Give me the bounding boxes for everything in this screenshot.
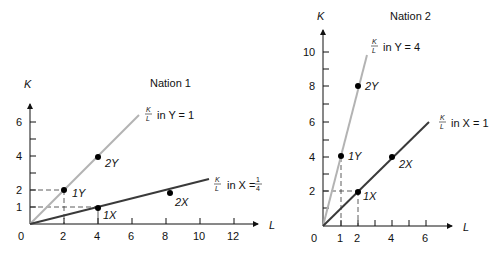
svg-text:in X = 1: in X = 1: [451, 117, 489, 129]
point-label: 2X: [398, 158, 413, 170]
y-tick-label: 2: [309, 185, 315, 197]
guide-lines: [30, 190, 98, 224]
point-1X: [95, 205, 101, 211]
x-axis-label: L: [463, 221, 469, 233]
point-1X: [355, 189, 361, 195]
y-tick-label: 8: [309, 80, 315, 92]
nation-2-panel: Nation 2 K L 0 1 2 4 6 2: [303, 10, 489, 244]
ray-Y-label: K L in Y = 1: [145, 106, 194, 122]
svg-text:K: K: [440, 114, 445, 121]
x-ticks: [64, 218, 234, 224]
point-label: 1X: [363, 190, 377, 202]
y-tick-label: 10: [303, 46, 315, 58]
x-tick-label: 4: [388, 232, 394, 244]
nation-2-title: Nation 2: [390, 10, 431, 22]
x-tick-label: 4: [94, 230, 100, 242]
ray-Y: [323, 55, 367, 226]
x-tick-label: 2: [354, 232, 360, 244]
svg-text:L: L: [372, 47, 376, 54]
svg-text:in X =: in X =: [227, 179, 259, 191]
point-2Y: [355, 83, 361, 89]
svg-text:K: K: [146, 106, 151, 113]
svg-text:L: L: [215, 185, 219, 192]
x-tick-label: 6: [128, 230, 134, 242]
svg-text:in Y = 4: in Y = 4: [383, 41, 420, 53]
y-tick-label: 6: [309, 116, 315, 128]
y-axis-label: K: [317, 10, 325, 22]
y-tick-label: 6: [16, 116, 22, 128]
point-2X: [167, 190, 173, 196]
x-tick-label: 12: [227, 230, 239, 242]
ray-X-label: K L in X = 1: [439, 114, 489, 130]
svg-text:K: K: [372, 38, 377, 45]
x-tick-label: 6: [422, 232, 428, 244]
point-2Y: [95, 154, 101, 160]
svg-text:K: K: [215, 176, 220, 183]
point-label: 2Y: [104, 157, 119, 169]
origin-label: 0: [18, 230, 24, 242]
x-tick-label: 8: [162, 230, 168, 242]
point-label: 1Y: [348, 150, 362, 162]
y-ticks: [323, 52, 329, 208]
y-tick-label: 4: [16, 150, 22, 162]
point-label: 2Y: [364, 80, 379, 92]
point-2X: [389, 154, 395, 160]
ray-Y-label: K L in Y = 4: [371, 38, 420, 54]
nation-1-panel: Nation 1 K L 0 2 4 6 8 10 12: [16, 77, 275, 242]
point-label: 2X: [174, 196, 189, 208]
origin-label: 0: [311, 232, 317, 244]
nation-1-title: Nation 1: [150, 77, 191, 89]
point-1Y: [338, 153, 344, 159]
y-ticks: [30, 122, 36, 207]
y-axis-label: K: [24, 78, 32, 90]
ray-X-label: K L in X = 1 4: [214, 176, 262, 192]
y-tick-label: 1: [16, 201, 22, 213]
factor-intensity-diagram: Nation 1 K L 0 2 4 6 8 10 12: [0, 0, 495, 254]
point-label: 1X: [103, 209, 117, 221]
point-label: 1Y: [72, 187, 86, 199]
svg-text:L: L: [440, 123, 444, 130]
x-tick-label: 1: [337, 232, 343, 244]
x-ticks: [341, 220, 426, 226]
svg-text:4: 4: [256, 185, 260, 192]
x-axis-label: L: [269, 219, 275, 231]
svg-text:L: L: [146, 115, 150, 122]
ray-Y: [30, 115, 139, 224]
svg-text:1: 1: [256, 176, 260, 183]
y-tick-label: 2: [16, 184, 22, 196]
y-tick-label: 4: [309, 151, 315, 163]
point-1Y: [61, 187, 67, 193]
x-tick-label: 10: [193, 230, 205, 242]
x-tick-label: 2: [60, 230, 66, 242]
ray-X: [323, 122, 429, 226]
svg-text:in Y = 1: in Y = 1: [157, 109, 194, 121]
